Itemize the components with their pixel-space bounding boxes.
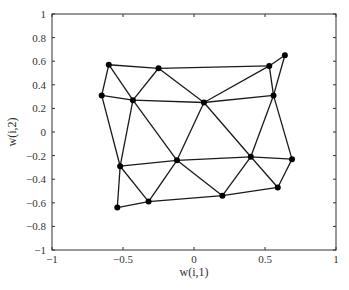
graph-node [201,100,207,106]
graph-node [248,154,254,160]
plot-area [52,14,336,250]
graph-node [266,63,272,69]
graph-node [117,163,123,169]
graph-node [106,62,112,68]
graph-node [282,52,288,58]
y-tick-label: −0.2 [26,150,46,162]
graph-node [99,92,105,98]
y-tick-label: −0.8 [26,220,46,232]
graph-node [114,205,120,211]
y-axis-label: w(i,2) [5,118,19,147]
graph-node [275,184,281,190]
graph-node [146,199,152,205]
network-chart: −1−0.500.51 10.80.60.40.20−0.2−0.4−0.6−0… [0,0,349,290]
y-tick-label: 0.6 [32,55,46,67]
x-tick-label: 0 [191,253,197,265]
graph-node [219,193,225,199]
x-axis-label: w(i,1) [180,265,209,279]
y-tick-label: −0.4 [26,173,46,185]
x-tick-label: 1 [333,253,339,265]
y-tick-label: 0 [41,126,47,138]
x-tick-label: −0.5 [113,253,133,265]
y-tick-label: 1 [41,8,47,20]
graph-node [271,92,277,98]
graph-node [289,156,295,162]
x-tick-label: −1 [46,253,58,265]
graph-node [156,65,162,71]
y-tick-label: −1 [34,244,46,256]
graph-node [130,97,136,103]
y-tick-label: 0.4 [32,79,46,91]
x-tick-label: 0.5 [258,253,272,265]
y-tick-label: −0.6 [26,197,46,209]
graph-node [174,157,180,163]
y-tick-label: 0.2 [32,102,46,114]
y-tick-label: 0.8 [32,32,46,44]
